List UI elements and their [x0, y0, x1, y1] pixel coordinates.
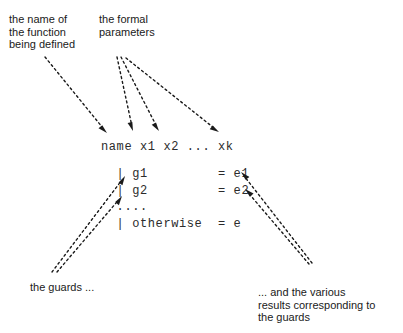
arrow-to-xk-head	[210, 125, 219, 132]
arrow-to-xk-shaft	[126, 58, 213, 127]
label-the-results: ... and the various results correspondin…	[258, 286, 398, 324]
code-signature-line: name x1 x2 ... xk	[101, 140, 234, 154]
arrow-to-x1-head	[128, 122, 133, 131]
label-formal-parameters: the formal parameters	[99, 13, 191, 38]
label-name-of-function: the name of the function being defined	[9, 13, 101, 51]
arrow-to-x1-shaft	[117, 57, 131, 124]
arrow-to-name-shaft	[45, 57, 102, 127]
arrow-to-name-head	[99, 125, 107, 133]
label-the-guards: the guards ...	[30, 281, 150, 294]
arrow-to-x2-head	[152, 122, 159, 131]
dashed-arrow-group	[45, 57, 312, 272]
diagram-canvas: the name of the function being defined t…	[0, 0, 403, 333]
code-guards-block: | g1 = e1 | g2 = e2 .... | otherwise = e	[101, 166, 249, 232]
arrow-to-result-e1-shaft	[246, 178, 312, 263]
arrow-to-result-e2-shaft	[250, 195, 309, 264]
arrow-to-x2-shaft	[121, 57, 156, 124]
